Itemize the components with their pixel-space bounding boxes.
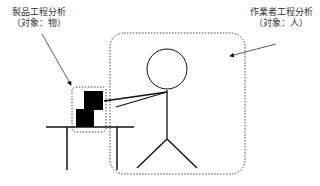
worker-dotted-boundary xyxy=(110,33,245,174)
worker-figure-icon xyxy=(104,49,197,168)
product-blocks-icon xyxy=(76,91,103,127)
product-callout-arrow xyxy=(42,34,71,85)
worker-callout-arrow xyxy=(230,44,276,56)
table-icon xyxy=(46,127,134,170)
diagram-canvas xyxy=(0,0,320,186)
